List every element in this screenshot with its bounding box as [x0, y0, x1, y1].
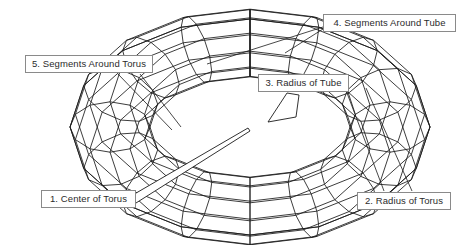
center-of-torus-pointer: [131, 128, 250, 203]
radius-of-tube-pointer: [268, 93, 299, 122]
callout-center-of-torus[interactable]: 1. Center of Torus: [41, 190, 136, 208]
callout-segments-around-tube[interactable]: 4. Segments Around Tube: [323, 14, 456, 32]
callout-radius-of-tube[interactable]: 3. Radius of Tube: [258, 74, 349, 92]
radius-of-torus-leader-a: [347, 93, 384, 191]
callout-segments-around-torus[interactable]: 5. Segments Around Torus: [25, 55, 153, 73]
callout-radius-of-torus[interactable]: 2. Radius of Torus: [357, 192, 451, 210]
segments-around-torus-leader-a: [118, 74, 172, 130]
radius-of-torus-leader-b: [366, 88, 412, 191]
segments-around-tube-leader-2: [285, 29, 323, 53]
diagram-canvas: 1. Center of Torus 2. Radius of Torus 3.…: [0, 0, 471, 245]
segments-around-tube-leader: [207, 27, 323, 64]
segments-around-torus-leader-b: [140, 74, 181, 127]
